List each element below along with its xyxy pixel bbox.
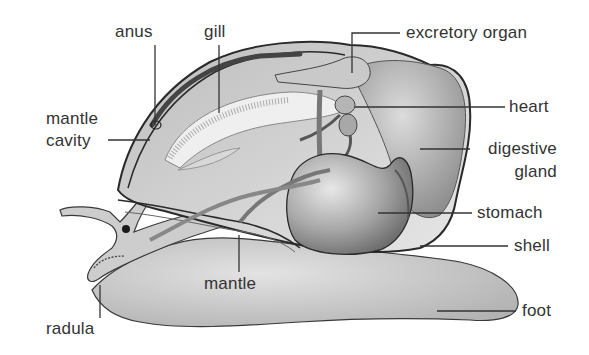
label-gill: gill <box>204 23 226 41</box>
eye-icon <box>122 225 130 233</box>
foot-shape <box>92 238 518 327</box>
label-excretory-organ: excretory organ <box>406 24 527 42</box>
snail-anatomy-diagram: anus gill mantle cavity excretory organ … <box>0 0 589 355</box>
label-digestive-gland-line2: gland <box>472 163 557 181</box>
label-foot: foot <box>522 302 551 320</box>
label-stomach: stomach <box>477 204 543 222</box>
label-radula: radula <box>46 320 94 338</box>
label-mantle-cavity-line1: mantle <box>46 110 98 128</box>
label-mantle: mantle <box>204 275 256 293</box>
label-shell: shell <box>514 237 550 255</box>
label-mantle-cavity-line2: cavity <box>46 132 91 150</box>
label-digestive-gland-line1: digestive <box>472 140 557 158</box>
stomach-shape <box>287 154 413 255</box>
label-anus: anus <box>115 23 153 41</box>
label-heart: heart <box>509 98 549 116</box>
